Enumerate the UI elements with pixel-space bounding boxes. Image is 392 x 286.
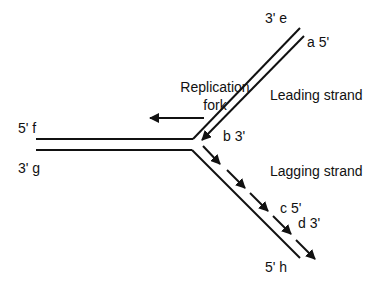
label-e: 3' e bbox=[265, 10, 287, 26]
lagging-strand-label: Lagging strand bbox=[270, 163, 363, 179]
fork-label-line1: Replication bbox=[160, 78, 270, 96]
label-h: 5' h bbox=[265, 259, 287, 275]
fork-label-line2: fork bbox=[160, 96, 270, 114]
label-d: d 3' bbox=[298, 215, 320, 231]
label-f: 5' f bbox=[18, 120, 36, 136]
replication-fork-label: Replication fork bbox=[160, 78, 270, 114]
label-b: b 3' bbox=[223, 128, 245, 144]
leading-strand-label: Leading strand bbox=[270, 87, 363, 103]
label-g: 3' g bbox=[18, 160, 40, 176]
label-a: a 5' bbox=[307, 34, 329, 50]
label-c: c 5' bbox=[280, 200, 301, 216]
replication-fork-diagram bbox=[0, 0, 392, 286]
